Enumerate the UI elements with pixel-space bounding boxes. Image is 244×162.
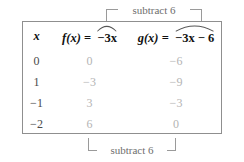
bottom-bracket-right-tick xyxy=(175,138,176,151)
table-row: −1 3 −3 xyxy=(23,93,223,114)
table-row: 1 −3 −9 xyxy=(23,72,223,93)
cell-x: 0 xyxy=(23,51,50,72)
bottom-bracket-label: subtract 6 xyxy=(88,144,176,156)
table-row: 0 0 −6 xyxy=(23,51,223,72)
header-label-x: x xyxy=(33,29,39,43)
cell-g: −3 xyxy=(129,93,223,114)
header-cell-f: f(x) = −3x xyxy=(50,22,129,51)
math-table-figure: subtract 6 x f(x) = xyxy=(0,0,244,162)
table-header: x f(x) = −3x xyxy=(23,22,223,51)
cell-g: −6 xyxy=(129,51,223,72)
header-cell-g: g(x) = −3x − 6 xyxy=(129,22,223,51)
cell-x: −2 xyxy=(23,114,50,135)
top-bracket-label: subtract 6 xyxy=(106,4,202,16)
header-label-f-expression: −3x xyxy=(97,31,117,45)
header-g-expression-arc-group: −3x − 6 xyxy=(175,31,214,46)
header-label-g-prefix: g(x) xyxy=(138,31,159,45)
cell-f: −3 xyxy=(50,72,129,93)
function-value-table: x f(x) = −3x xyxy=(22,21,222,134)
cell-f: 6 xyxy=(50,114,129,135)
cell-f: 3 xyxy=(50,93,129,114)
bottom-bracket-annotation: subtract 6 xyxy=(88,137,176,157)
header-f-expression-arc-group: −3x xyxy=(97,31,117,46)
table-row: −2 6 0 xyxy=(23,114,223,135)
header-row: x f(x) = −3x xyxy=(23,22,223,51)
cell-x: −1 xyxy=(23,93,50,114)
table-body: 0 0 −6 1 −3 −9 −1 3 −3 −2 6 0 xyxy=(23,51,223,135)
overbrace-arc-icon xyxy=(175,24,214,32)
header-label-f-equals: = xyxy=(84,31,91,45)
cell-f: 0 xyxy=(50,51,129,72)
cell-x: 1 xyxy=(23,72,50,93)
overbrace-arc-icon xyxy=(97,24,117,32)
header-label-g-expression: −3x − 6 xyxy=(175,31,214,45)
header-cell-x: x xyxy=(23,22,50,51)
top-bracket-annotation: subtract 6 xyxy=(106,4,202,22)
header-label-f-prefix: f(x) xyxy=(62,31,81,45)
cell-g: 0 xyxy=(129,114,223,135)
cell-g: −9 xyxy=(129,72,223,93)
header-label-g-equals: = xyxy=(162,31,169,45)
